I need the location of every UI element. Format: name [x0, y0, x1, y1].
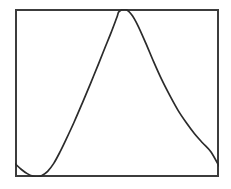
plot-frame: [16, 10, 218, 176]
plot-svg: [15, 9, 219, 177]
plot-area: [15, 9, 219, 177]
chart-figure: [0, 0, 231, 189]
